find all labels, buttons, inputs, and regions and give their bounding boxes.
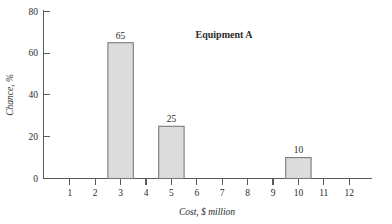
x-tick-label-6: 6: [194, 188, 199, 198]
bar-value-labels: 65 25 10: [116, 31, 304, 156]
x-tick-label-8: 8: [245, 188, 250, 198]
x-tick-label-9: 9: [271, 188, 276, 198]
x-tick-label-2: 2: [93, 188, 98, 198]
x-tick-label-11: 11: [319, 188, 328, 198]
y-tick-label-20: 20: [29, 132, 39, 142]
x-tick-label-10: 10: [294, 188, 304, 198]
chart-title: Equipment A: [196, 29, 254, 40]
x-tick-label-4: 4: [144, 188, 149, 198]
bar-5[interactable]: [159, 126, 184, 178]
bar-3[interactable]: [108, 43, 133, 179]
x-tick-label-5: 5: [169, 188, 174, 198]
y-axis-ticks: [44, 11, 51, 178]
x-tick-label-1: 1: [67, 188, 72, 198]
x-tick-label-7: 7: [220, 188, 225, 198]
x-tick-label-3: 3: [118, 188, 123, 198]
y-tick-label-0: 0: [33, 174, 38, 184]
bar-value-label-3: 65: [116, 31, 126, 41]
bar-series: [108, 43, 311, 179]
chart-canvas: 0 20 40 60 80 1 2 3 4 5: [0, 0, 392, 224]
bar-value-label-10: 10: [294, 145, 304, 155]
x-axis-tick-labels: 1 2 3 4 5 6 7 8 9 10 11 12: [67, 188, 354, 198]
y-axis-title: Chance, %: [5, 74, 15, 116]
y-tick-label-40: 40: [29, 90, 39, 100]
y-tick-label-60: 60: [29, 48, 39, 58]
bar-10[interactable]: [286, 158, 311, 179]
x-axis-title: Cost, $ million: [179, 207, 235, 217]
x-tick-label-12: 12: [344, 188, 354, 198]
bar-value-label-5: 25: [167, 114, 177, 124]
bar-chart: 0 20 40 60 80 1 2 3 4 5: [0, 0, 392, 224]
y-tick-label-80: 80: [29, 7, 39, 17]
x-axis-ticks: [70, 179, 349, 186]
y-axis-tick-labels: 0 20 40 60 80: [29, 7, 39, 184]
